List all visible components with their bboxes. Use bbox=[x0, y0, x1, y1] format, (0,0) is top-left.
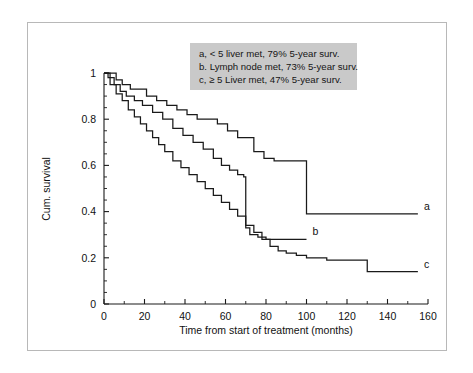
survival-curve-a bbox=[104, 73, 418, 214]
chart-curves bbox=[104, 73, 418, 272]
chart-axes: 020406080100120140160 00.20.40.60.81 bbox=[81, 67, 437, 322]
y-tick-label: 0.6 bbox=[81, 159, 96, 171]
x-tick-label: 160 bbox=[419, 310, 437, 322]
curve-end-label-c: c bbox=[424, 258, 429, 270]
y-tick-label: 0.4 bbox=[81, 205, 96, 217]
survival-curve-c bbox=[104, 73, 418, 272]
curve-end-label-a: a bbox=[424, 200, 430, 212]
x-axis-ticks bbox=[104, 299, 428, 304]
curve-end-label-b: b bbox=[313, 225, 319, 237]
y-tick-label: 0.2 bbox=[81, 252, 96, 264]
x-tick-label: 40 bbox=[179, 310, 191, 322]
y-tick-label: 0.8 bbox=[81, 113, 96, 125]
y-tick-label: 0 bbox=[90, 298, 96, 310]
y-axis-tick-labels: 00.20.40.60.81 bbox=[81, 67, 96, 310]
y-axis-ticks bbox=[104, 73, 109, 304]
x-tick-label: 80 bbox=[260, 310, 272, 322]
chart-curve-labels: abc bbox=[313, 200, 430, 270]
x-tick-label: 100 bbox=[298, 310, 316, 322]
x-tick-label: 120 bbox=[338, 310, 356, 322]
x-tick-label: 60 bbox=[220, 310, 232, 322]
survival-chart: 020406080100120140160 00.20.40.60.81 abc… bbox=[28, 23, 446, 350]
x-tick-label: 0 bbox=[101, 310, 107, 322]
y-tick-label: 1 bbox=[90, 67, 96, 79]
x-tick-label: 20 bbox=[139, 310, 151, 322]
y-axis-title: Cum. survival bbox=[40, 157, 52, 221]
x-axis-tick-labels: 020406080100120140160 bbox=[101, 310, 437, 322]
x-axis-title: Time from start of treatment (months) bbox=[179, 324, 353, 336]
figure-frame: a, < 5 liver met, 79% 5-year surv. b. Ly… bbox=[27, 22, 447, 351]
survival-curve-b bbox=[104, 73, 307, 239]
x-tick-label: 140 bbox=[379, 310, 397, 322]
